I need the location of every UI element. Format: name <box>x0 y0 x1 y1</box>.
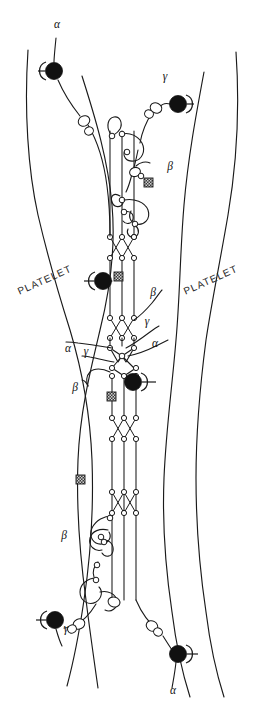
chain-bottom-right <box>136 600 176 688</box>
domain-cluster-lower <box>64 515 121 634</box>
receptor-mid-left <box>84 272 112 290</box>
label-alpha-center-right: α <box>152 337 159 349</box>
platelet-label-left: PLATELET <box>16 263 74 297</box>
chain-alpha-top-left <box>54 38 110 236</box>
receptor-bottom-left <box>36 611 64 629</box>
label-gamma-top-right: γ <box>163 70 168 83</box>
label-beta-lower-left: β <box>60 529 67 542</box>
label-gamma-center-left: γ <box>84 345 89 358</box>
receptor-bottom-right <box>170 645 199 663</box>
crosslink-bottom <box>76 475 85 484</box>
platelet-label-right: PLATELET <box>182 263 240 297</box>
label-beta-center-left: β <box>71 381 78 394</box>
platelet-right-text: PLATELET <box>182 263 240 297</box>
label-gamma-center-right: γ <box>145 315 150 328</box>
platelet-right-membrane <box>163 52 237 697</box>
loop-node-top-right <box>143 101 163 120</box>
receptor-top-left <box>38 62 63 80</box>
label-beta-upper-right: β <box>166 160 173 173</box>
crosslink-lower <box>107 392 116 401</box>
chain-alpha-center-left <box>66 342 112 348</box>
crosslink-upper <box>144 178 153 187</box>
loop-node-upper-left <box>76 114 95 137</box>
chain-bottom-left-tail <box>56 629 62 646</box>
label-alpha-top-left: α <box>54 18 61 30</box>
label-gamma-bottom-left: γ <box>64 622 69 635</box>
platelet-left-text: PLATELET <box>16 263 74 297</box>
braid-region-3 <box>109 415 138 441</box>
receptor-mid-right <box>125 373 157 391</box>
figure-root: PLATELET PLATELET <box>0 0 259 709</box>
fibrin-platelet-diagram: PLATELET PLATELET <box>0 0 259 709</box>
chain-beta-center-left <box>82 369 110 386</box>
crosslink-mid <box>114 272 123 281</box>
label-beta-center-right: β <box>149 286 156 299</box>
label-alpha-bottom-right: α <box>170 684 177 696</box>
receptor-top-right <box>170 95 195 113</box>
label-alpha-center-left: α <box>65 342 72 354</box>
braid-region-2 <box>107 315 136 348</box>
